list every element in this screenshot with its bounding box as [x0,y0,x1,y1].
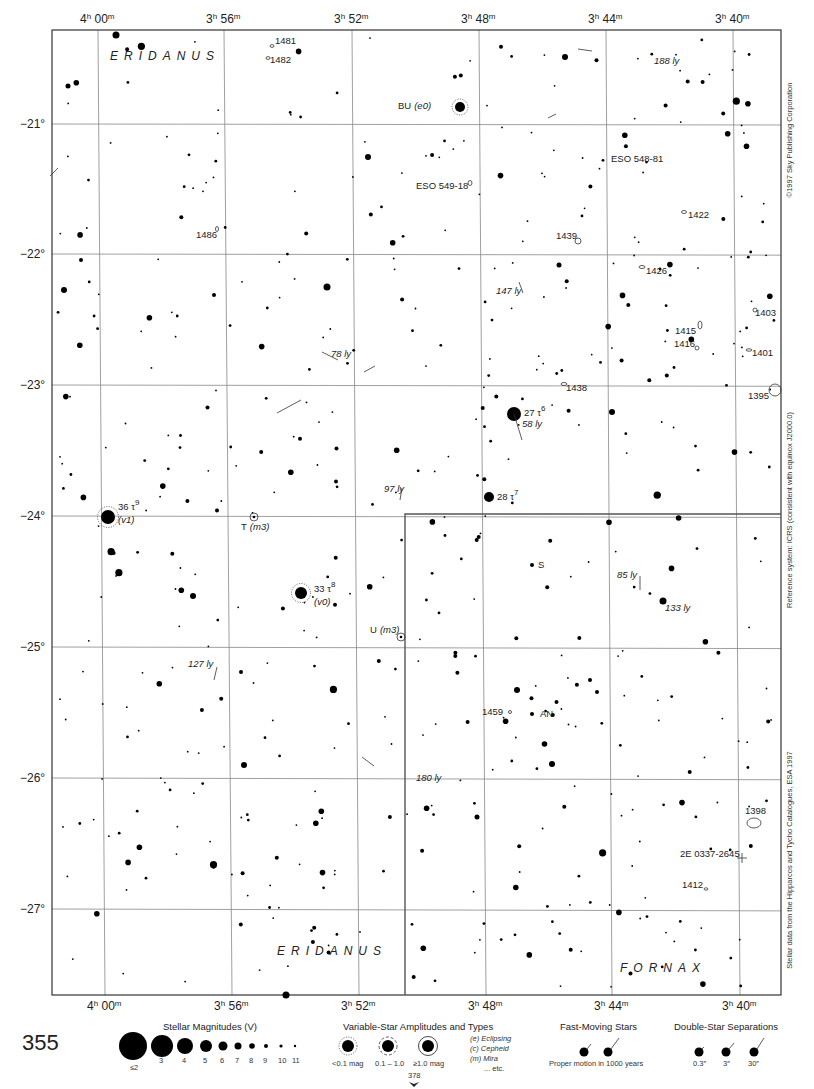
deep-sky-object[interactable]: 1412 [682,879,703,890]
magnitude-scale: ≤234567891011 [119,1032,300,1072]
star [599,361,602,364]
legend-amp-low: <0.1 mag [332,1059,363,1068]
star [637,775,639,777]
variable-star-label[interactable]: AN [540,708,553,719]
star [531,132,533,134]
star [647,378,651,382]
star [480,533,482,535]
bright-star [365,154,371,160]
star [383,577,385,579]
deep-sky-object[interactable]: 1401 [752,347,773,358]
page-number: 355 [22,1030,59,1055]
star [746,741,748,743]
star [279,297,281,299]
star [310,929,313,932]
named-star[interactable]: 28 τ7 [484,488,519,502]
galaxy-symbol [639,266,645,269]
star [367,584,373,590]
deep-sky-object[interactable]: ESO 548-81 [611,153,663,164]
star [763,203,765,205]
star [732,69,734,71]
named-star[interactable]: 33 τ8(v0) [292,580,336,607]
star [406,813,408,815]
star [482,477,486,481]
svg-text:2E 0337-2645: 2E 0337-2645 [680,848,740,859]
continuation-page-ref[interactable]: 378 [408,1071,421,1080]
star [402,235,405,238]
star [517,844,521,848]
variable-star-label[interactable]: T(m3) [241,521,269,532]
star [733,343,735,345]
deep-sky-object[interactable]: ESO 549-18 [416,180,468,191]
deep-sky-object[interactable]: 1395 [748,390,769,401]
star [194,41,196,43]
star [59,456,61,458]
star [767,294,773,300]
star [602,159,605,162]
star [335,447,339,451]
star [479,193,481,195]
deep-sky-object[interactable]: 1481 [275,35,296,46]
star [216,619,219,622]
star [125,423,127,425]
deep-sky-object[interactable]: 1486 [196,229,217,240]
star [86,227,88,229]
deep-sky-object[interactable]: 1403 [755,307,776,318]
star [69,396,71,398]
star [665,374,669,378]
star [172,667,174,669]
star [435,723,437,725]
deep-sky-object[interactable]: 1415 [675,325,696,336]
star [658,720,660,722]
constellation-name: ERIDANUS [110,49,220,63]
star [88,281,91,284]
deep-sky-object[interactable]: 1416 [674,338,695,349]
star [138,730,140,732]
deep-sky-object[interactable]: 1459 [482,706,503,717]
star [535,685,537,687]
deep-sky-object[interactable]: 2E 0337-2645 [680,848,740,859]
deep-sky-object[interactable]: 1398 [745,805,766,816]
deep-sky-object[interactable]: 1426 [646,265,667,276]
named-star[interactable]: 36 τ9(v1) [98,498,140,528]
star [561,708,563,710]
variable-star-label[interactable]: S [538,559,544,570]
star [466,720,470,724]
star [519,871,521,873]
deep-sky-object[interactable]: 1422 [688,209,709,220]
star [475,538,479,542]
chevron-down-icon[interactable] [409,1082,419,1087]
proper-motion-vector [578,49,592,51]
star [620,359,624,363]
legend-type-etc: ... etc. [484,1064,504,1073]
constellation-name: ERIDANUS [277,944,387,958]
variable-star-label[interactable]: BU(e0) [398,100,431,111]
deep-sky-object[interactable]: 1439 [556,230,577,241]
star [626,303,630,307]
variable-star-label[interactable]: U(m3) [370,624,399,635]
star [185,499,189,503]
deep-sky-object[interactable]: 1482 [270,54,291,65]
star [600,722,603,725]
star [669,274,672,277]
ra-label-bottom: 3h 56m [214,999,249,1013]
star [646,915,649,918]
deep-sky-object[interactable]: 1438 [566,382,587,393]
star [494,268,496,270]
star [588,185,592,189]
star [742,355,744,357]
star [61,463,63,465]
star [667,262,673,268]
magnitude-label: 3 [159,1056,163,1065]
star [473,891,475,893]
star [455,671,459,675]
svg-text:36 τ9: 36 τ9 [118,498,140,512]
star [605,324,611,330]
star [611,347,613,349]
star [745,101,751,107]
star [542,363,544,365]
star [267,662,269,664]
star [202,190,204,192]
star-field [57,32,776,999]
magnitude-dot [294,1045,296,1047]
